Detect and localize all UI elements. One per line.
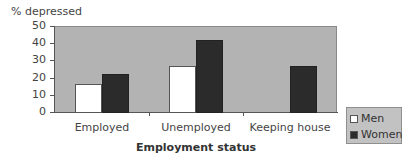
bar-women: [196, 40, 223, 113]
category-label-unemployed: Unemployed: [149, 121, 243, 134]
legend-swatch-women: [350, 131, 358, 139]
y-tick: [50, 112, 55, 113]
legend-swatch-men: [350, 115, 358, 123]
legend-label: Men: [361, 112, 384, 125]
bar-women: [290, 66, 317, 113]
y-tick: [50, 95, 55, 96]
bar-men: [169, 66, 196, 113]
category-label-employed: Employed: [55, 121, 149, 134]
y-tick-label: 30: [22, 54, 46, 66]
y-tick: [50, 26, 55, 27]
y-tick: [50, 60, 55, 61]
y-tick: [50, 78, 55, 79]
y-tick: [50, 43, 55, 44]
legend-item-women: Women: [350, 128, 402, 141]
y-tick-label: 20: [22, 72, 46, 84]
y-tick-label: 40: [22, 37, 46, 49]
legend-item-men: Men: [350, 112, 384, 125]
y-tick-label: 0: [22, 106, 46, 118]
x-axis-label: Employment status: [55, 141, 337, 154]
legend-label: Women: [361, 128, 402, 141]
y-tick-label: 50: [22, 20, 46, 32]
y-axis-line: [54, 26, 55, 113]
bar-men: [75, 84, 102, 113]
bar-women: [102, 74, 129, 113]
y-tick-label: 10: [22, 89, 46, 101]
y-axis-label: % depressed: [11, 5, 82, 18]
x-tick: [243, 112, 244, 116]
category-label-keeping-house: Keeping house: [243, 121, 337, 134]
legend: Men Women: [346, 107, 402, 144]
x-tick: [149, 112, 150, 116]
